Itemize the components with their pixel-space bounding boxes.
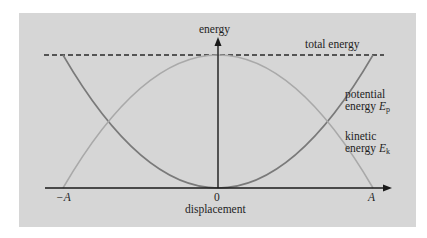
potential-energy-label: potential energy Ep: [345, 88, 390, 114]
x-tick-neg-a: −A: [56, 191, 71, 203]
total-energy-label: total energy: [305, 38, 359, 50]
energy-displacement-diagram: energy total energy potential energy Ep …: [0, 0, 427, 238]
x-tick-a: A: [368, 191, 375, 203]
y-axis-label: energy: [199, 23, 230, 35]
x-axis-arrow-icon: [383, 185, 392, 192]
potential-label-line1: potential: [345, 88, 390, 100]
x-tick-zero: 0: [214, 191, 220, 203]
kinetic-energy-label: kinetic energy Ek: [345, 130, 390, 156]
kinetic-label-line1: kinetic: [345, 130, 390, 142]
kinetic-label-line2: energy Ek: [345, 142, 390, 156]
y-axis-arrow-icon: [215, 37, 222, 46]
potential-label-line2: energy Ep: [345, 100, 390, 114]
x-axis-label: displacement: [185, 203, 246, 215]
